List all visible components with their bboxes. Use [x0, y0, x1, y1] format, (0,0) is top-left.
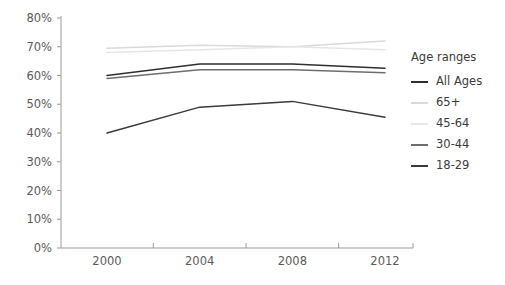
- y-axis-tick-label: 30%: [26, 155, 52, 169]
- legend-item-label: 30-44: [436, 139, 469, 151]
- y-axis-tick-label: 10%: [26, 212, 52, 226]
- legend-item[interactable]: 45-64: [411, 113, 505, 134]
- legend-item-list: All Ages65+45-6430-4418-29: [411, 71, 505, 176]
- y-axis-tick-label: 60%: [26, 69, 52, 83]
- y-axis: 0%10%20%30%40%50%60%70%80%: [26, 11, 61, 255]
- x-axis-tick-label: 2008: [278, 254, 307, 268]
- legend-item[interactable]: 65+: [411, 92, 505, 113]
- legend-item-label: All Ages: [436, 76, 482, 88]
- legend-swatch-icon: [411, 123, 428, 125]
- legend-item-label: 65+: [436, 97, 460, 109]
- y-axis-tick-label: 40%: [26, 126, 52, 140]
- line-chart: 0%10%20%30%40%50%60%70%80% 2000200420082…: [0, 0, 505, 285]
- series-line-65-: [107, 41, 385, 48]
- y-axis-tick-label: 0%: [34, 241, 52, 255]
- series-line-18-29: [107, 101, 385, 133]
- legend-item-label: 45-64: [436, 118, 469, 130]
- data-series-group: [107, 41, 385, 133]
- x-axis-tick-label: 2012: [370, 254, 399, 268]
- x-axis-tick-label: 2000: [92, 254, 121, 268]
- legend-swatch-icon: [411, 81, 428, 83]
- legend-item-label: 18-29: [436, 160, 469, 172]
- legend-item[interactable]: 30-44: [411, 134, 505, 155]
- legend-swatch-icon: [411, 144, 428, 146]
- legend-swatch-icon: [411, 102, 428, 104]
- y-axis-tick-label: 70%: [26, 40, 52, 54]
- y-axis-tick-label: 50%: [26, 97, 52, 111]
- chart-legend: Age ranges All Ages65+45-6430-4418-29: [411, 50, 505, 176]
- y-axis-tick-label: 80%: [26, 11, 52, 25]
- legend-title: Age ranges: [411, 50, 505, 64]
- x-axis: 2000200420082012: [61, 243, 413, 268]
- legend-item[interactable]: All Ages: [411, 71, 505, 92]
- x-axis-tick-label: 2004: [185, 254, 214, 268]
- legend-item[interactable]: 18-29: [411, 155, 505, 176]
- legend-swatch-icon: [411, 165, 428, 167]
- y-axis-tick-label: 20%: [26, 184, 52, 198]
